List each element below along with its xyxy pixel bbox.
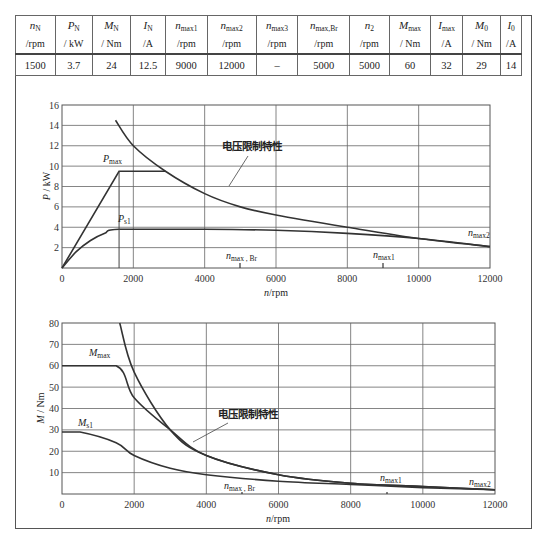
x-tick-label: 12000 — [478, 273, 503, 284]
n-max2-label: nmax2 — [469, 476, 491, 489]
x-tick-label: 2000 — [124, 499, 144, 510]
p-max-label: Pmax — [102, 153, 122, 166]
y-tick-label: 8 — [54, 181, 59, 192]
y-tick-label: 16 — [49, 100, 59, 111]
x-tick-label: 10000 — [410, 499, 435, 510]
x-tick-label: 8000 — [341, 499, 361, 510]
x-tick-label: 0 — [60, 273, 65, 284]
x-tick-label: 4000 — [196, 499, 216, 510]
charts-canvas: 020004000600080001000012000 246810121416… — [0, 0, 548, 545]
series---line — [116, 120, 491, 246]
y-tick-label: 6 — [54, 201, 59, 212]
y-tick-label: 40 — [49, 403, 59, 414]
y-tick-label: 4 — [54, 222, 59, 233]
y-tick-label: 20 — [49, 446, 59, 457]
y-tick-label: 10 — [49, 467, 59, 478]
power-chart: 020004000600080001000012000 246810121416… — [41, 100, 503, 299]
x-tick-label: 2000 — [123, 273, 143, 284]
power-chart-x-ticks: 020004000600080001000012000 — [60, 273, 503, 284]
voltage-limit-label: 电压限制特性 — [222, 140, 283, 152]
y-tick-label: 12 — [49, 140, 59, 151]
voltage-limit-leader — [229, 156, 248, 186]
x-tick-label: 6000 — [269, 499, 289, 510]
torque-chart-grid — [62, 323, 495, 494]
x-tick-label: 10000 — [406, 273, 431, 284]
y-tick-label: 10 — [49, 161, 59, 172]
n-max-br-label: nmax , Br — [226, 250, 258, 263]
torque-chart-y-ticks: 1020304050607080 — [49, 318, 59, 479]
power-chart-grid — [62, 105, 490, 268]
series-p-max-line — [62, 171, 165, 268]
torque-chart-x-ticks: 020004000600080001000012000 — [60, 499, 508, 510]
n-max-br-label: nmax , Br — [224, 480, 256, 493]
voltage-limit-leader — [193, 423, 228, 442]
y-tick-label: 60 — [49, 360, 59, 371]
power-chart-y-label: P / kW — [41, 171, 52, 201]
y-tick-label: 50 — [49, 382, 59, 393]
torque-chart-y-label: M / Nm — [35, 392, 46, 424]
torque-chart-x-label: n/rpm — [266, 513, 290, 524]
power-chart-x-label: n/rpm — [264, 287, 288, 298]
voltage-limit-label: 电压限制特性 — [218, 408, 279, 420]
y-tick-label: 70 — [49, 339, 59, 350]
n-max2-label: nmax2 — [468, 227, 490, 240]
n-max1-label: nmax1 — [380, 472, 402, 485]
m-max-label: Mmax — [88, 347, 111, 360]
m-s1-label: Ms1 — [77, 417, 93, 430]
x-tick-label: 0 — [60, 499, 65, 510]
n-max1-label: nmax1 — [373, 249, 395, 262]
y-tick-label: 2 — [54, 242, 59, 253]
y-tick-label: 80 — [49, 318, 59, 329]
y-tick-label: 14 — [49, 120, 59, 131]
x-tick-label: 6000 — [266, 273, 286, 284]
torque-chart: 020004000600080001000012000 102030405060… — [35, 318, 508, 525]
x-tick-label: 8000 — [337, 273, 357, 284]
x-tick-label: 4000 — [195, 273, 215, 284]
series---line — [120, 323, 495, 490]
y-tick-label: 30 — [49, 424, 59, 435]
x-tick-label: 12000 — [483, 499, 508, 510]
